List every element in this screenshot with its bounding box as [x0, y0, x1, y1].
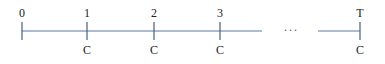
period-label: T	[356, 6, 364, 20]
timeline-diagram: 0 1 C 2 C 3 C ··· T C	[0, 0, 385, 64]
cash-flow-label: C	[150, 43, 158, 57]
ellipsis: ···	[284, 23, 299, 37]
period-label: 3	[217, 6, 223, 20]
period-label: 2	[151, 6, 157, 20]
timeline-point-0: 0	[19, 6, 25, 40]
cash-flow-label: C	[216, 43, 224, 57]
cash-flow-label: C	[83, 43, 91, 57]
cash-flow-label: C	[356, 43, 364, 57]
period-label: 1	[84, 6, 90, 20]
period-label: 0	[19, 6, 25, 20]
